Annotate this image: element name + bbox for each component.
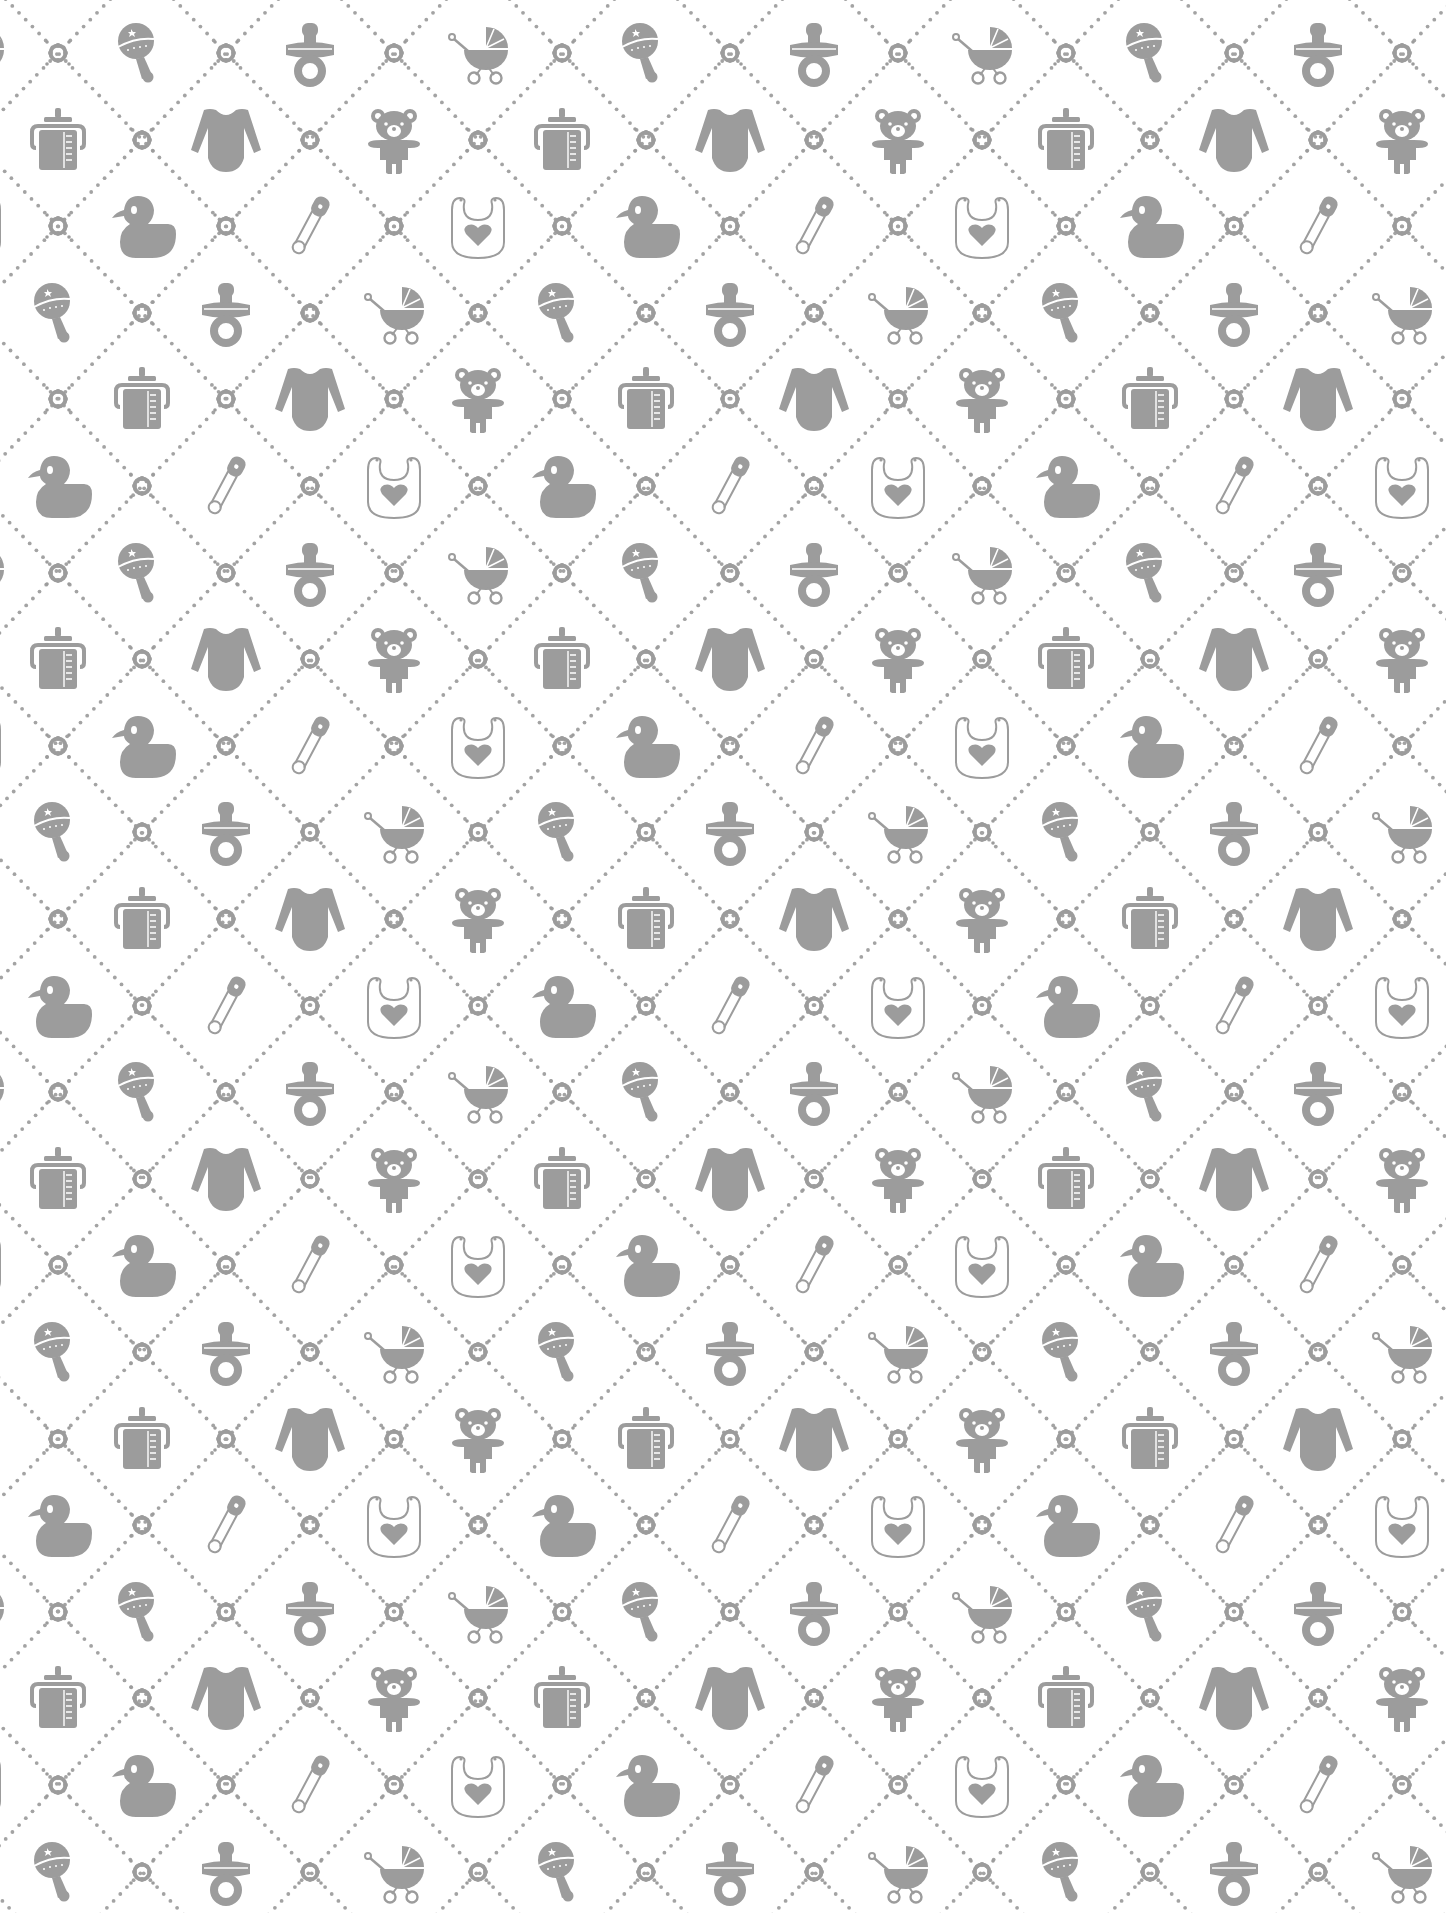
bodysuit-icon — [1194, 100, 1274, 180]
pacifier-icon — [270, 1052, 350, 1132]
rattle-icon — [18, 273, 98, 353]
bib-icon — [0, 1745, 14, 1825]
teddy-bear-icon — [1362, 1658, 1442, 1738]
flower-icon — [1278, 619, 1358, 699]
flower-icon — [942, 619, 1022, 699]
flower-icon — [606, 100, 686, 180]
flower-icon — [858, 359, 938, 439]
flower-icon — [18, 533, 98, 613]
flower-icon — [270, 1139, 350, 1219]
flower-icon — [270, 1658, 350, 1738]
flower-icon — [1194, 13, 1274, 93]
teddy-bear-icon — [858, 1658, 938, 1738]
rattle-icon — [18, 1312, 98, 1392]
flower-icon — [1110, 1312, 1190, 1392]
rattle-icon — [1110, 1572, 1190, 1652]
flower-icon — [354, 1572, 434, 1652]
flower-icon — [942, 966, 1022, 1046]
bib-icon — [354, 446, 434, 526]
bib-icon — [1362, 1485, 1442, 1565]
pram-icon — [858, 1312, 938, 1392]
pram-icon — [438, 1052, 518, 1132]
flower-icon — [1110, 100, 1190, 180]
bottle-icon — [1026, 100, 1106, 180]
flower-icon — [1362, 13, 1442, 93]
rubber-duck-icon — [606, 1225, 686, 1305]
bodysuit-icon — [690, 100, 770, 180]
flower-icon — [354, 359, 434, 439]
rubber-duck-icon — [1110, 186, 1190, 266]
rubber-duck-icon — [522, 1485, 602, 1565]
safety-pin-icon — [690, 1485, 770, 1565]
flower-icon — [1026, 13, 1106, 93]
flower-icon — [690, 186, 770, 266]
flower-icon — [774, 446, 854, 526]
flower-icon — [0, 1832, 14, 1912]
flower-icon — [1110, 446, 1190, 526]
flower-icon — [18, 1572, 98, 1652]
pacifier-icon — [690, 1832, 770, 1912]
flower-icon — [1194, 533, 1274, 613]
pram-icon — [354, 1832, 434, 1912]
pacifier-icon — [1278, 533, 1358, 613]
flower-icon — [942, 1312, 1022, 1392]
bodysuit-icon — [690, 1139, 770, 1219]
bottle-icon — [102, 1399, 182, 1479]
pram-icon — [0, 13, 14, 93]
bottle-icon — [606, 1399, 686, 1479]
teddy-bear-icon — [354, 1658, 434, 1738]
flower-icon — [858, 13, 938, 93]
flower-icon — [1194, 186, 1274, 266]
flower-icon — [102, 1139, 182, 1219]
rubber-duck-icon — [606, 186, 686, 266]
safety-pin-icon — [1194, 1485, 1274, 1565]
flower-icon — [1362, 1572, 1442, 1652]
bib-icon — [942, 1745, 1022, 1825]
rattle-icon — [606, 1052, 686, 1132]
flower-icon — [858, 1225, 938, 1305]
bottle-icon — [1110, 359, 1190, 439]
safety-pin-icon — [1278, 1745, 1358, 1825]
flower-icon — [690, 1572, 770, 1652]
pram-icon — [1362, 1832, 1442, 1912]
pram-icon — [438, 13, 518, 93]
flower-icon — [522, 186, 602, 266]
pacifier-icon — [690, 273, 770, 353]
rattle-icon — [606, 13, 686, 93]
flower-icon — [0, 966, 14, 1046]
flower-icon — [1026, 1745, 1106, 1825]
rattle-icon — [102, 1052, 182, 1132]
bodysuit-icon — [1278, 359, 1358, 439]
flower-icon — [522, 533, 602, 613]
flower-icon — [1362, 533, 1442, 613]
teddy-bear-icon — [438, 879, 518, 959]
flower-icon — [774, 100, 854, 180]
flower-icon — [0, 619, 14, 699]
flower-icon — [270, 446, 350, 526]
flower-icon — [774, 273, 854, 353]
flower-icon — [1278, 966, 1358, 1046]
bodysuit-icon — [1194, 619, 1274, 699]
pram-icon — [438, 533, 518, 613]
flower-icon — [774, 619, 854, 699]
rubber-duck-icon — [606, 706, 686, 786]
teddy-bear-icon — [354, 619, 434, 699]
flower-icon — [186, 186, 266, 266]
flower-icon — [186, 1225, 266, 1305]
flower-icon — [690, 13, 770, 93]
flower-icon — [354, 1225, 434, 1305]
bib-icon — [858, 966, 938, 1046]
flower-icon — [438, 446, 518, 526]
flower-icon — [774, 1832, 854, 1912]
flower-icon — [522, 879, 602, 959]
flower-icon — [774, 792, 854, 872]
bottle-icon — [18, 619, 98, 699]
bib-icon — [438, 1225, 518, 1305]
rattle-icon — [102, 1572, 182, 1652]
pacifier-icon — [1194, 1312, 1274, 1392]
flower-icon — [438, 1312, 518, 1392]
flower-icon — [1194, 1745, 1274, 1825]
rubber-duck-icon — [1110, 706, 1190, 786]
flower-icon — [606, 1485, 686, 1565]
rattle-icon — [522, 792, 602, 872]
